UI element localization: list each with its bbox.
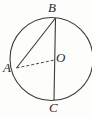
geometry-figure-canvas [0, 0, 92, 118]
segment-ab-chord [17, 18, 56, 68]
geometry-figure: B A O C [0, 0, 92, 118]
circle-shape [10, 18, 92, 101]
vertex-label-a: A [3, 61, 11, 74]
vertex-label-c: C [49, 101, 58, 114]
vertex-label-o: O [56, 51, 65, 64]
vertex-label-b: B [48, 1, 56, 14]
